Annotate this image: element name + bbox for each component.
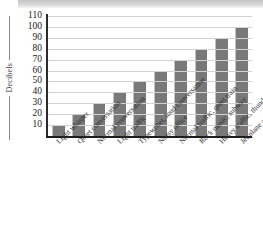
y-tick-label: 70 [33,55,43,65]
gridline [48,60,252,61]
gridline [48,81,252,82]
y-tick-label: 100 [28,22,42,32]
y-tick-label: 10 [33,120,43,130]
y-axis-title-label: Decibels [5,60,14,96]
y-tick-label: 110 [28,11,42,21]
gridline [48,16,252,17]
scan-artifact-band [18,0,263,8]
bar-chart-figure: Decibels 102030405060708090100110 Light … [0,0,263,239]
gridline [48,71,252,72]
x-axis-category-labels: Light whisperQuiet conversationNormal co… [0,138,263,239]
gridline [48,27,252,28]
y-tick-label: 80 [33,44,43,54]
y-axis-title: Decibels [2,16,16,140]
y-axis-title-rule-top [9,16,10,60]
y-tick-label: 20 [33,109,43,119]
y-tick-label: 30 [33,99,43,109]
y-tick-label: 50 [33,77,43,87]
y-tick-label: 40 [33,88,43,98]
y-tick-label: 90 [33,33,43,43]
y-axis-title-rule-bottom [9,96,10,140]
y-tick-label: 60 [33,66,43,76]
gridline [48,38,252,39]
gridline [48,49,252,50]
